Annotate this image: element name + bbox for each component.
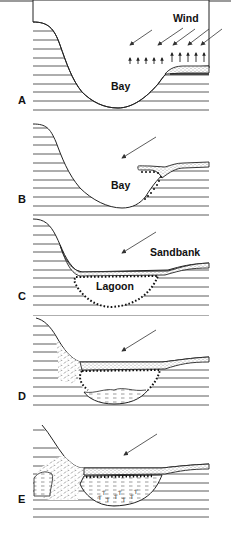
svg-text:Ƭ: Ƭ bbox=[106, 496, 110, 503]
bay-label-a: Bay bbox=[111, 80, 130, 92]
lagoon-label: Lagoon bbox=[96, 280, 134, 292]
panel-c: Sandbank Lagoon C bbox=[18, 215, 209, 307]
panel-letter-c: C bbox=[18, 290, 26, 302]
wind-label: Wind bbox=[173, 12, 199, 24]
panel-letter-e: E bbox=[18, 493, 25, 505]
svg-text:Ƭ: Ƭ bbox=[102, 489, 106, 496]
vegetation-mound bbox=[34, 472, 53, 496]
panel-b: Bay B bbox=[18, 112, 209, 208]
svg-text:Ƭ: Ƭ bbox=[134, 488, 138, 495]
bay-label-b: Bay bbox=[111, 179, 130, 191]
svg-text:Ƭ: Ƭ bbox=[122, 496, 126, 503]
panel-letter-b: B bbox=[18, 193, 26, 205]
panel-d: D bbox=[18, 316, 209, 405]
panel-letter-d: D bbox=[18, 390, 26, 402]
panel-e: ƬƬƬƬƬƬƬƬ E bbox=[18, 420, 209, 517]
panel-letter-a: A bbox=[18, 94, 26, 106]
svg-text:Ƭ: Ƭ bbox=[118, 489, 122, 496]
sandbank-label: Sandbank bbox=[150, 246, 200, 258]
panel-a: Wind Bay A bbox=[18, 0, 222, 118]
lagoon-formation-diagram: Wind Bay A bbox=[0, 0, 231, 540]
